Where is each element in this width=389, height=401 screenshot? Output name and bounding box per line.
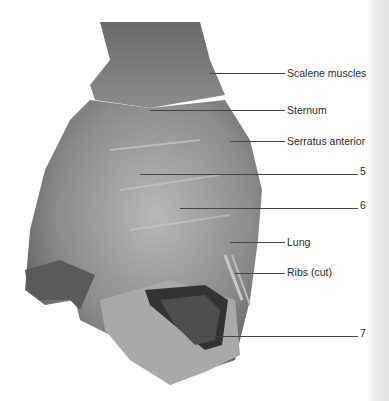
- leader-serratus: [230, 141, 285, 142]
- label-serratus-anterior: Serratus anterior: [287, 135, 365, 147]
- label-sternum: Sternum: [287, 104, 327, 116]
- label-7: 7: [360, 327, 366, 339]
- specimen-photo: [0, 0, 389, 401]
- leader-7: [200, 336, 358, 337]
- leader-5: [140, 174, 358, 175]
- leader-lung: [230, 242, 285, 243]
- leader-6: [180, 208, 358, 209]
- label-5: 5: [360, 165, 366, 177]
- label-6: 6: [360, 199, 366, 211]
- leader-ribs: [235, 273, 285, 274]
- leader-scalene: [210, 73, 285, 74]
- label-scalene-muscles: Scalene muscles: [287, 67, 366, 79]
- label-ribs-cut: Ribs (cut): [287, 266, 332, 278]
- leader-sternum: [150, 110, 285, 111]
- label-lung: Lung: [287, 236, 310, 248]
